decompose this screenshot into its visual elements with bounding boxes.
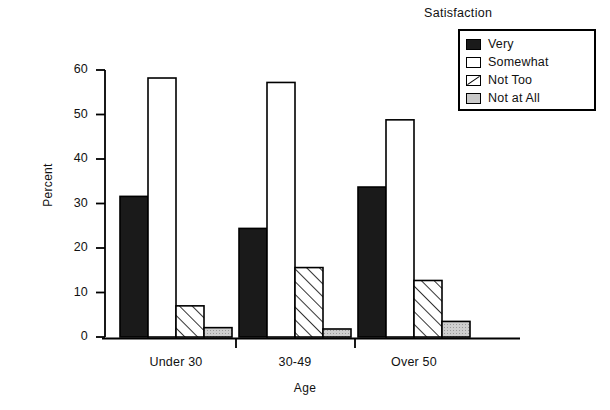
legend-label-not-at-all: Not at All [488,91,540,105]
y-tick-label: 20 [48,240,88,254]
legend-item-not-too: Not Too [466,71,588,89]
bar [358,187,386,337]
diagonal-hatch-icon [467,76,480,85]
bars-group [120,78,470,337]
legend-swatch-not-at-all-icon [466,93,481,104]
bar [204,328,232,337]
bar-chart: Percent 0102030405060 Under 3030-49Over … [0,0,610,410]
legend-label-very: Very [488,37,514,51]
legend-label-not-too: Not Too [488,73,532,87]
legend-label-somewhat: Somewhat [488,55,549,69]
x-tick-label: Over 50 [344,355,484,369]
legend-title: Satisfaction [424,6,492,20]
legend-swatch-somewhat-icon [466,57,481,68]
bar [120,196,148,337]
bar [414,280,442,337]
bar [442,321,470,337]
y-axis-title: Percent [41,125,55,245]
x-axis-title: Age [0,381,610,395]
bar [148,78,176,337]
legend-item-very: Very [466,35,588,53]
bar [295,268,323,337]
bar [323,329,351,337]
bar [239,228,267,337]
y-tick-label: 30 [48,196,88,210]
legend-swatch-not-too-icon [466,75,481,86]
bar [386,120,414,337]
legend-swatch-very-icon [466,39,481,50]
legend-box: Very Somewhat Not Too Not at All [458,29,596,111]
bar [176,306,204,337]
y-tick-label: 50 [48,107,88,121]
y-tick-label: 0 [48,329,88,343]
y-tick-label: 10 [48,285,88,299]
bar [267,82,295,337]
y-tick-label: 40 [48,151,88,165]
legend-item-not-at-all: Not at All [466,89,588,107]
legend-item-somewhat: Somewhat [466,53,588,71]
y-tick-label: 60 [48,62,88,76]
